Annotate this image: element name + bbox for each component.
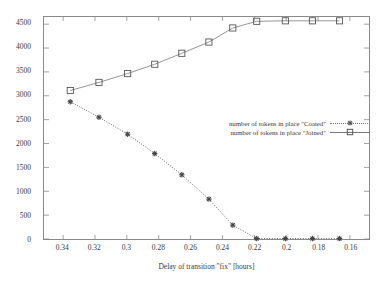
x-axis-tick-labels: 0.340.320.30.280.260.240.220.20.180.16 [43,244,370,256]
series-line [70,21,339,91]
x-tick-label: 0.28 [152,244,165,252]
legend-sample-coated [330,119,370,128]
square-icon [346,128,354,136]
legend-label-coated: number of tokens in place "Coated" [229,119,330,128]
data-point-marker [68,99,73,104]
x-axis-title: Delay of transition "fix" [hours] [43,262,370,271]
x-tick-label: 0.2 [282,244,291,252]
legend-item-coated: number of tokens in place "Coated" [196,119,370,128]
y-tick-label: 2000 [16,140,31,148]
y-axis-tick-labels: 050010001500200025003000350040004500 [0,16,36,240]
y-tick-label: 4500 [16,19,31,27]
legend-sample-joined [330,128,370,137]
x-tick-label: 0.22 [248,244,261,252]
x-tick-label: 0.18 [312,244,325,252]
chart-legend: number of tokens in place "Coated" numbe… [196,119,370,137]
data-point-marker [283,236,288,241]
x-tick-label: 0.26 [184,244,197,252]
y-tick-label: 1500 [16,164,31,172]
y-tick-label: 0 [27,236,31,244]
legend-label-joined: number of tokens in place "Joined" [230,128,330,137]
data-point-marker [152,151,157,156]
x-tick-label: 0.24 [216,244,229,252]
x-tick-label: 0.3 [122,244,131,252]
asterisk-icon [347,120,354,127]
data-point-marker [254,236,259,241]
y-tick-label: 2500 [16,116,31,124]
data-point-marker [206,196,211,201]
x-tick-label: 0.32 [88,244,101,252]
x-tick-label: 0.34 [56,244,69,252]
data-point-marker [179,172,184,177]
y-tick-label: 3500 [16,67,31,75]
chart-figure: 050010001500200025003000350040004500 0.3… [0,0,387,287]
data-point-marker [310,236,315,241]
series-joined [67,18,342,94]
y-tick-label: 500 [20,212,31,220]
data-point-marker [230,222,235,227]
x-tick-label: 0.16 [344,244,357,252]
data-point-marker [67,87,73,93]
data-point-marker [125,132,130,137]
legend-item-joined: number of tokens in place "Joined" [196,128,370,137]
y-tick-label: 3000 [16,91,31,99]
data-point-marker [337,236,342,241]
data-point-marker [96,115,101,120]
y-tick-label: 1000 [16,188,31,196]
y-tick-label: 4000 [16,43,31,51]
